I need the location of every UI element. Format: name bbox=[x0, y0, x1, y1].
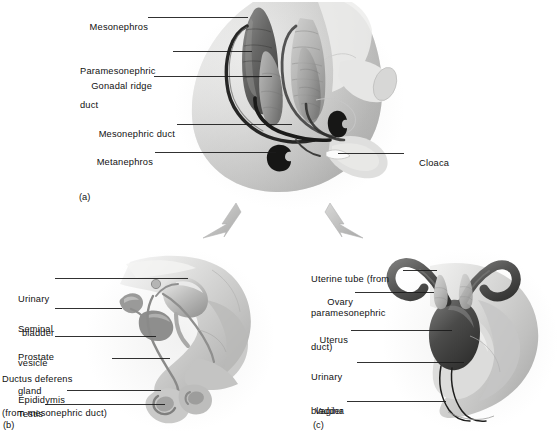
duct-junction bbox=[151, 279, 160, 288]
label-c-vagina-line1: Vagina bbox=[315, 406, 344, 416]
label-c-urinary-bladder-line1: Urinary bbox=[311, 372, 371, 383]
label-c-ovary-line1: Ovary bbox=[327, 297, 353, 307]
label-b-testis-line1: Testis bbox=[18, 409, 43, 419]
label-c-ovary: Ovary bbox=[300, 286, 353, 320]
label-mesonephric-duct-line1: Mesonephric duct bbox=[99, 129, 175, 139]
panel-label-b: (b) bbox=[3, 420, 14, 430]
label-gonadal-ridge-line1: Gonadal ridge bbox=[91, 81, 152, 91]
label-cloaca: Cloaca bbox=[408, 147, 468, 181]
panel-label-a: (a) bbox=[79, 192, 90, 202]
label-metanephros: Metanephros bbox=[62, 146, 153, 180]
label-mesonephros-line1: Mesonephros bbox=[90, 22, 148, 32]
arrow-to-male-icon bbox=[203, 203, 241, 238]
label-metanephros-line1: Metanephros bbox=[97, 157, 153, 167]
label-c-uterine-tube-line1: Uterine tube (from bbox=[311, 274, 411, 285]
label-mesonephros: Mesonephros bbox=[62, 11, 148, 45]
panel-a-artwork bbox=[175, 0, 405, 210]
label-cloaca-line1: Cloaca bbox=[419, 158, 449, 168]
arrow-to-female-icon bbox=[325, 203, 363, 238]
label-c-uterus-line1: Uterus bbox=[320, 335, 349, 345]
label-gonadal-ridge: Gonadal ridge bbox=[62, 70, 152, 104]
figure-reproductive-development: Mesonephros Paramesonephric duct Gonadal… bbox=[0, 0, 557, 436]
panel-label-c: (c) bbox=[313, 420, 324, 430]
